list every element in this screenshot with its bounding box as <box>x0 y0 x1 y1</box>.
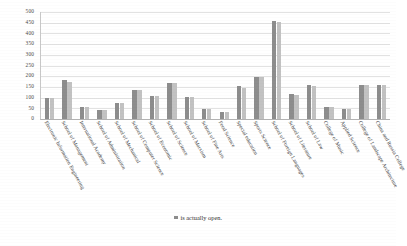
bar <box>120 103 124 119</box>
bar <box>132 90 136 119</box>
bar <box>137 90 141 119</box>
bar <box>259 77 263 119</box>
bar <box>220 112 224 119</box>
bar <box>80 107 84 119</box>
bar <box>50 98 54 119</box>
y-axis-tick-label: 400 <box>0 31 34 36</box>
y-axis-tick-label: 50 <box>0 106 34 111</box>
bar <box>272 21 276 119</box>
bar <box>97 110 101 119</box>
bar <box>254 77 258 119</box>
bar-group <box>250 77 267 119</box>
bar <box>172 83 176 119</box>
x-axis-label: School of Foreign Languages <box>270 120 306 179</box>
bar <box>277 22 281 119</box>
bar <box>347 109 351 119</box>
bar <box>359 85 363 119</box>
bar-group <box>233 86 250 119</box>
y-axis-tick-label: 350 <box>0 41 34 46</box>
chart-legend: is actually open. <box>0 214 396 221</box>
legend-label: is actually open. <box>180 214 222 221</box>
bar <box>329 107 333 119</box>
bar-group <box>58 80 75 119</box>
bar <box>202 109 206 119</box>
bar-group <box>198 109 215 119</box>
bar <box>85 107 89 119</box>
bar <box>324 107 328 119</box>
bar <box>307 85 311 119</box>
bar-group <box>285 94 302 119</box>
bar <box>289 94 293 119</box>
bar <box>237 86 241 119</box>
y-axis-tick-label: 450 <box>0 20 34 25</box>
bar-group <box>41 98 58 119</box>
bar <box>190 97 194 119</box>
bar-group <box>320 107 337 119</box>
bar <box>225 112 229 119</box>
bar-group <box>216 112 233 119</box>
bar-group <box>373 85 390 119</box>
bar-group <box>128 90 145 119</box>
bar <box>382 85 386 119</box>
bar-group <box>268 21 285 119</box>
y-axis-tick-label: 500 <box>0 9 34 14</box>
bar <box>207 109 211 119</box>
bar-group <box>76 107 93 119</box>
bar-group <box>338 109 355 119</box>
bar <box>185 97 189 119</box>
bar <box>67 82 71 119</box>
bar-group <box>355 85 372 119</box>
bars-layer <box>41 12 390 119</box>
x-axis-label: Food Science <box>217 120 236 148</box>
bar-group <box>146 96 163 119</box>
y-axis-tick-label: 150 <box>0 84 34 89</box>
bar <box>312 86 316 119</box>
bar-group <box>93 110 110 119</box>
y-axis-tick-label: 200 <box>0 73 34 78</box>
x-axis-labels: Electronic Information EngineeringSchool… <box>40 120 390 212</box>
bar <box>364 85 368 119</box>
y-axis-tick-label: 100 <box>0 95 34 100</box>
bar <box>377 85 381 119</box>
plot-area: 050100150200250300350400450500 <box>40 12 390 120</box>
y-axis-tick-label: 250 <box>0 63 34 68</box>
y-axis-tick-label: 300 <box>0 52 34 57</box>
bar <box>102 110 106 119</box>
bar-group <box>181 97 198 119</box>
y-axis-tick-label: 0 <box>0 116 34 121</box>
bar <box>150 96 154 119</box>
legend-swatch-icon <box>174 216 179 218</box>
bar <box>242 88 246 119</box>
bar <box>342 109 346 119</box>
bar-group <box>111 103 128 119</box>
bar-group <box>303 85 320 119</box>
bar <box>294 95 298 119</box>
bar <box>115 103 119 119</box>
bar-group <box>163 83 180 119</box>
bar <box>155 96 159 119</box>
bar <box>62 80 66 119</box>
bar <box>167 83 171 119</box>
bar <box>45 98 49 119</box>
